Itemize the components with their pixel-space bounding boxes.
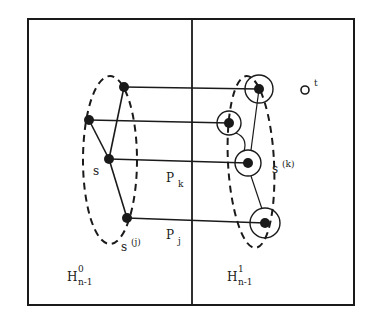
label-left-partition: H [67, 270, 77, 284]
node-r3 [243, 158, 253, 168]
label-pj-sub: j [177, 236, 181, 246]
node-s [104, 154, 114, 164]
edge-s-sj [109, 159, 127, 218]
label-right-partition-sub: n-1 [238, 277, 253, 287]
label-left-partition-sub: n-1 [78, 277, 93, 287]
right-partition-main: H [227, 270, 237, 284]
edge-sj-r4 [127, 218, 265, 223]
label-right-partition-sup: 1 [238, 264, 244, 274]
node-r2 [224, 118, 234, 128]
node-sj [122, 213, 132, 223]
label-left-partition-sup: 0 [78, 264, 84, 274]
edge-r3-r4 [251, 176, 262, 209]
edge-l1-r1 [124, 87, 259, 89]
left-nodes [84, 82, 132, 223]
label-sk-sup: (k) [282, 159, 294, 169]
label-s: s [93, 164, 99, 178]
right-node-rings [217, 75, 280, 238]
label-pk-main: P [166, 171, 174, 185]
label-sj: s (j) [121, 237, 141, 254]
right-edges [236, 89, 262, 209]
label-pj-main: P [166, 228, 174, 242]
node-r4 [260, 218, 270, 228]
edge-s-r3 [109, 159, 248, 163]
label-pk: P k [166, 171, 184, 189]
label-t: t [314, 78, 318, 88]
label-pk-sub: k [178, 179, 184, 189]
edge-l2-r2 [89, 120, 229, 123]
label-sk-main: s [272, 162, 278, 176]
left-tree-edges [89, 87, 127, 218]
label-sj-sup: (j) [131, 237, 141, 247]
hypercube-partition-diagram: t s s (j) s (k) P k P j H 0 n-1 H 1 n-1 [0, 0, 373, 319]
edge-s-l2 [89, 120, 109, 159]
node-l2 [84, 115, 94, 125]
node-t [301, 86, 309, 94]
label-right-partition: H [227, 270, 237, 284]
left-partition-main: H [67, 270, 77, 284]
node-r1 [254, 84, 264, 94]
label-sj-main: s [121, 240, 127, 254]
edge-s-l1 [109, 87, 124, 159]
label-pj: P j [166, 228, 181, 246]
arc-r2-r3 [236, 133, 245, 151]
node-l1 [119, 82, 129, 92]
label-sk: s (k) [272, 159, 294, 176]
